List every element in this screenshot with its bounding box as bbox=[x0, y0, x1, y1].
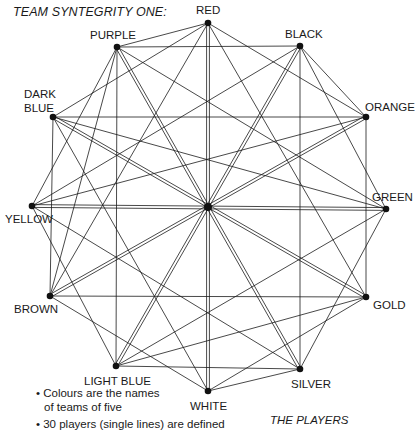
vertex-red bbox=[205, 20, 212, 27]
label-black: BLACK bbox=[285, 27, 323, 41]
edge-brown-purple bbox=[50, 47, 117, 296]
vertex-yellow bbox=[29, 203, 36, 210]
center-node bbox=[204, 203, 212, 211]
label-silver: SILVER bbox=[291, 377, 331, 391]
vertex-silver bbox=[297, 366, 304, 373]
label-red: RED bbox=[196, 3, 220, 17]
edge-brown-dark-blue bbox=[50, 117, 53, 296]
vertex-orange bbox=[363, 114, 370, 121]
edge-green-silver bbox=[300, 209, 386, 369]
vertex-gold bbox=[363, 294, 370, 301]
edge-light-blue-yellow bbox=[32, 206, 116, 366]
edge-light-blue-purple bbox=[116, 47, 117, 366]
edge-black-purple bbox=[117, 46, 300, 47]
edge-silver-light-blue bbox=[116, 366, 300, 369]
label-orange: ORANGE bbox=[365, 100, 415, 114]
label-yellow: YELLOW bbox=[5, 212, 53, 226]
edge-gold-light-blue bbox=[116, 297, 366, 366]
edge-black-orange bbox=[300, 46, 366, 117]
label-white: WHITE bbox=[190, 399, 227, 413]
note-players: • 30 players (single lines) are defined bbox=[36, 417, 225, 431]
edge-white-dark-blue bbox=[53, 117, 208, 391]
label-gold: GOLD bbox=[373, 298, 406, 312]
edge-silver-yellow bbox=[32, 206, 300, 369]
vertex-white bbox=[205, 388, 212, 395]
vertex-black bbox=[297, 43, 304, 50]
vertex-purple bbox=[114, 44, 121, 51]
edge-black-green bbox=[300, 46, 386, 209]
vertex-green bbox=[383, 206, 390, 213]
edge-green-dark-blue bbox=[53, 117, 386, 209]
label-purple: PURPLE bbox=[90, 28, 136, 42]
edge-orange-yellow bbox=[32, 117, 366, 206]
label-dark-blue: DARKBLUE bbox=[24, 87, 56, 115]
vertex-light-blue bbox=[113, 363, 120, 370]
edge-gold-brown bbox=[50, 296, 366, 297]
label-green: GREEN bbox=[372, 190, 413, 204]
edge-silver-white bbox=[208, 369, 300, 391]
footer-caption: THE PLAYERS bbox=[270, 414, 348, 426]
note-colours-line1: • Colours are the names bbox=[36, 386, 160, 400]
label-brown: BROWN bbox=[14, 302, 58, 316]
vertex-brown bbox=[47, 293, 54, 300]
note-colours-line2: of teams of five bbox=[44, 400, 122, 414]
edge-yellow-purple bbox=[32, 47, 117, 206]
